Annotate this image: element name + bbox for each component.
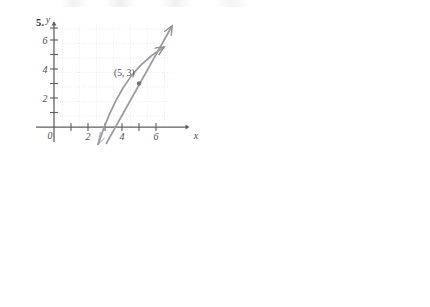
origin-label-5: 0 — [48, 130, 53, 141]
problem-panel-9: 9. — [215, 155, 430, 307]
worksheet-page: 5. — [0, 0, 430, 307]
point-marker-5 — [137, 81, 141, 85]
x-axis-label-5: x — [193, 130, 199, 141]
point-label-5: (5, 3) — [114, 68, 135, 79]
y-tick-label-4: 4 — [43, 64, 48, 75]
x-tick-label-6: 6 — [154, 131, 159, 142]
y-tick-label-6: 6 — [43, 35, 48, 46]
problem-panel-5: 5. — [0, 0, 215, 155]
y-axis-label-5: y — [45, 14, 51, 25]
x-tick-label-4: 4 — [120, 131, 125, 142]
x-tick-label-2: 2 — [86, 131, 91, 142]
graph-5: 0 2 4 6 2 4 6 x y (5, 3) — [28, 14, 208, 150]
problem-panel-6: 6. — [215, 0, 430, 155]
problem-panel-8: 8. — [0, 155, 215, 307]
y-tick-label-2: 2 — [43, 93, 48, 104]
